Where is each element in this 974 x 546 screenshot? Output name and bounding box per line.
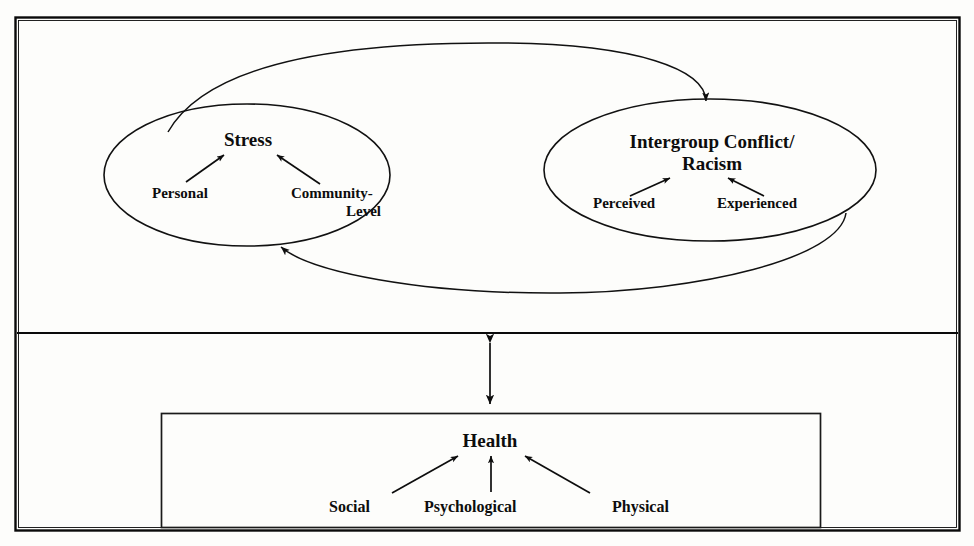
arrow-perceived-to-conflict: [630, 178, 670, 196]
health-sub-physical: Physical: [612, 498, 669, 516]
intergroup-conflict-label-line1: Intergroup Conflict/: [630, 131, 796, 152]
stress-label: Stress: [224, 129, 272, 150]
conflict-sub-experienced: Experienced: [717, 195, 798, 211]
arrow-personal-to-stress: [186, 155, 224, 182]
diagram-page: Stress Personal Community- Level Intergr…: [0, 0, 974, 546]
arrow-community-to-stress: [277, 155, 320, 184]
stress-sub-personal: Personal: [152, 185, 208, 201]
conflict-sub-perceived: Perceived: [593, 195, 656, 211]
upper-panel: Stress Personal Community- Level Intergr…: [104, 43, 876, 293]
arrow-social-to-health: [392, 456, 458, 493]
health-label: Health: [463, 430, 518, 451]
stress-sub-community-line1: Community-: [291, 185, 373, 201]
outer-frame: [16, 18, 960, 531]
health-sub-social: Social: [329, 498, 370, 515]
health-sub-psychological: Psychological: [424, 498, 517, 516]
conceptual-model-diagram: Stress Personal Community- Level Intergr…: [0, 0, 974, 546]
node-stress[interactable]: Stress Personal Community- Level: [104, 104, 390, 246]
stress-ellipse: [104, 104, 390, 246]
connector-conflict-to-stress: [281, 213, 846, 293]
connector-stress-to-conflict: [168, 43, 706, 132]
arrow-physical-to-health: [525, 456, 590, 493]
stress-sub-community-line2: Level: [346, 203, 381, 219]
intergroup-conflict-label-line2: Racism: [682, 153, 742, 174]
lower-panel: Health Social Psychological Physical: [162, 414, 821, 528]
arrow-experienced-to-conflict: [728, 178, 764, 196]
node-intergroup-conflict-racism[interactable]: Intergroup Conflict/ Racism Perceived Ex…: [544, 99, 876, 241]
